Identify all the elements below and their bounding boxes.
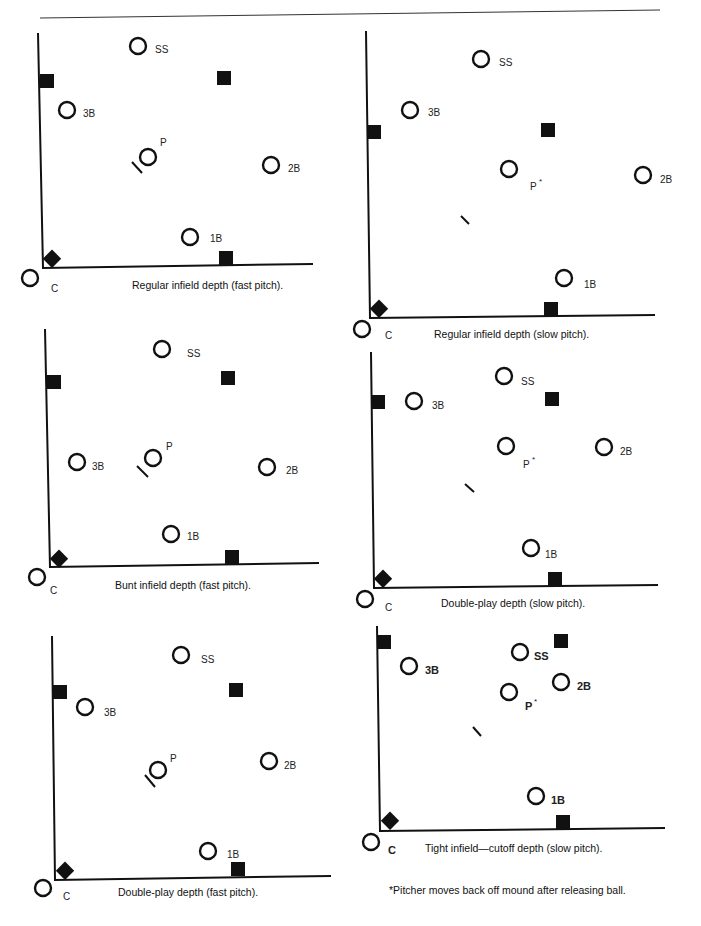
player-c: C [35,880,70,902]
player-circle-icon [501,161,517,177]
pitching-rubber [137,466,148,477]
third-base-marker [371,395,385,409]
player-label: 3B [104,707,117,718]
first-base-marker [544,302,558,316]
pitching-rubber [473,727,481,736]
player-circle-icon [145,450,161,466]
foul-lines [52,636,331,880]
player-circle-icon [357,591,373,607]
player-label: 2B [577,680,591,692]
second-base-marker [545,392,559,406]
diagram-regular-slow: SS3BP*2B1BCRegular infield depth (slow p… [354,31,673,341]
player-label: C [50,585,57,596]
player-circle-icon [261,753,277,769]
third-base-marker [47,375,61,389]
player-label: 2B [620,446,633,457]
infield-positions-figure: SS3BP2B1BCRegular infield depth (fast pi… [0,0,701,926]
player-p: P [145,441,173,466]
first-base-marker [548,572,562,586]
player-circle-icon [363,834,379,850]
player-label: 3B [92,461,105,472]
player-circle-icon [501,684,517,700]
player-label: P [523,459,530,470]
player-label: 3B [428,107,441,118]
pitching-rubber [465,484,474,492]
diagrams: SS3BP2B1BCRegular infield depth (fast pi… [22,31,673,902]
diagram-bunt-fast: SS3BP2B1BCBunt infield depth (fast pitch… [29,329,319,596]
player-circle-icon [173,647,189,663]
player-circle-icon [150,762,166,778]
player-circle-icon [200,843,216,859]
second-base-marker [554,634,568,648]
player-circle-icon [498,438,514,454]
player-ss: SS [512,644,549,662]
player-label: 1B [187,531,200,542]
player-circle-icon [154,341,170,357]
diagram-doubleplay-fast: SS3BP2B1BCDouble-play depth (fast pitch)… [35,636,331,902]
second-base-marker [217,71,231,85]
player-circle-icon [163,526,179,542]
player-label: 3B [425,664,439,676]
diagram-tight-cutoff-slow: SS3BP*2B1BCTight infield—cutoff depth (s… [363,626,665,856]
player-1b: 1B [182,229,223,245]
player-label: 2B [660,174,673,185]
player-p: P [140,137,167,165]
player-label: 1B [227,849,240,860]
player-c: C [29,569,57,596]
player-p: P* [501,684,537,712]
player-label: P [530,181,537,192]
player-label: 1B [210,233,223,244]
player-label: SS [201,654,215,665]
player-circle-icon [35,880,51,896]
diagram-regular-fast: SS3BP2B1BCRegular infield depth (fast pi… [22,33,313,294]
home-plate-marker [43,250,61,268]
player-label: C [385,602,392,613]
player-c: C [363,834,396,856]
player-label: 3B [432,400,445,411]
player-circle-icon [59,102,75,118]
diagram-caption: Tight infield—cutoff depth (slow pitch). [425,842,602,854]
footnote-asterisk: * [534,697,537,706]
diagram-caption: Double-play depth (slow pitch). [441,597,585,609]
player-label: SS [534,650,549,662]
player-circle-icon [29,569,45,585]
player-p: P* [501,161,542,192]
player-1b: 1B [523,540,558,560]
second-base-marker [221,371,235,385]
diagram-caption: Double-play depth (fast pitch). [118,886,258,898]
player-label: 1B [551,794,565,806]
player-circle-icon [140,149,156,165]
first-base-marker [231,862,245,876]
player-p: P [150,753,177,778]
player-2b: 2B [596,439,633,457]
player-3b: 3B [406,393,445,411]
player-ss: SS [473,51,513,68]
player-circle-icon [496,368,512,384]
home-plate-marker [374,570,392,588]
player-c: C [22,270,58,294]
pitching-rubber [132,162,142,173]
player-3b: 3B [77,699,117,718]
home-plate-marker [370,300,388,318]
player-circle-icon [354,321,370,337]
player-3b: 3B [402,102,441,118]
diagram-doubleplay-slow: SS3BP*2B1BCDouble-play depth (slow pitch… [357,352,658,613]
player-2b: 2B [259,459,299,476]
first-base-marker [219,251,233,265]
player-circle-icon [556,270,572,286]
diagram-caption: Regular infield depth (slow pitch). [434,328,589,340]
player-label: P [160,137,167,148]
player-circle-icon [77,699,93,715]
player-label: C [63,891,70,902]
player-circle-icon [528,788,544,804]
player-2b: 2B [263,157,301,174]
player-ss: SS [173,647,215,665]
pitching-rubber [461,216,469,224]
player-label: 1B [584,279,597,290]
footnote-asterisk: * [532,455,535,464]
player-circle-icon [596,439,612,455]
diagram-caption: Bunt infield depth (fast pitch). [115,579,251,591]
player-2b: 2B [635,167,673,185]
player-label: P [166,441,173,452]
player-label: 1B [545,549,558,560]
